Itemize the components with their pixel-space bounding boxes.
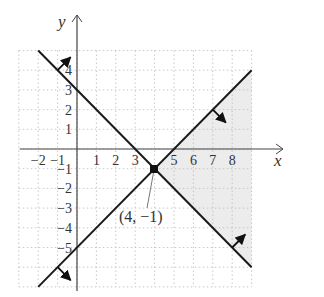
- x-axis-label: x: [273, 151, 282, 170]
- x-tick-label: 2: [112, 153, 119, 168]
- x-tick-label: 7: [209, 153, 216, 168]
- x-tick-label: 1: [93, 153, 100, 168]
- y-tick-label: 4: [65, 63, 72, 78]
- x-tick-label: −2: [31, 153, 46, 168]
- x-tick-label: 6: [190, 153, 197, 168]
- y-tick-label: 2: [65, 103, 72, 118]
- y-tick-label: −5: [57, 241, 72, 256]
- y-tick-label: −3: [57, 201, 72, 216]
- point-marker: [150, 165, 158, 173]
- direction-arrow-icon: [58, 267, 71, 280]
- y-axis-label: y: [56, 12, 66, 31]
- y-tick-label: 1: [65, 122, 72, 137]
- y-tick-label: −2: [57, 181, 72, 196]
- x-tick-label: 5: [171, 153, 178, 168]
- y-tick-label: −1: [57, 162, 72, 177]
- point-label: (4, −1): [119, 208, 163, 226]
- intersection-point: (4, −1): [119, 165, 163, 226]
- inequality-graph: x y −2−112356784321−1−2−3−4−5 (4, −1): [0, 0, 324, 297]
- x-tick-label: 3: [132, 153, 139, 168]
- y-tick-label: −4: [57, 221, 72, 236]
- x-tick-label: 8: [229, 153, 236, 168]
